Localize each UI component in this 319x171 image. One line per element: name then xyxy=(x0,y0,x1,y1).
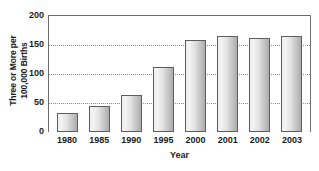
y-tick-label-50: 50 xyxy=(18,98,44,107)
bar-1990[interactable] xyxy=(121,95,142,132)
x-axis-title: Year xyxy=(48,150,311,161)
bar-series xyxy=(49,16,310,132)
plot-area xyxy=(48,15,311,132)
x-tick-label-2002: 2002 xyxy=(244,134,276,148)
bar-2002[interactable] xyxy=(249,38,270,132)
y-tick-label-200: 200 xyxy=(18,11,44,20)
x-tick-label-2003: 2003 xyxy=(276,134,308,148)
x-tick-label-2001: 2001 xyxy=(212,134,244,148)
x-tick-label-1995: 1995 xyxy=(147,134,179,148)
bar-slot xyxy=(84,16,116,132)
bar-2003[interactable] xyxy=(281,36,302,132)
bar-1980[interactable] xyxy=(57,113,78,132)
y-axis-tick-labels: 200 150 100 50 0 xyxy=(14,0,44,171)
y-tick-label-150: 150 xyxy=(18,40,44,49)
y-tick-label-0: 0 xyxy=(18,127,44,136)
bar-slot xyxy=(211,16,243,132)
bar-slot xyxy=(275,16,307,132)
x-axis-tick-labels: 19801985199019952000200120022003 xyxy=(48,134,311,148)
x-tick-label-1980: 1980 xyxy=(51,134,83,148)
x-tick-label-1990: 1990 xyxy=(115,134,147,148)
bar-chart: Three or More per 100,000 Births 200 150… xyxy=(0,0,319,171)
bar-2001[interactable] xyxy=(217,36,238,132)
x-tick-label-2000: 2000 xyxy=(180,134,212,148)
bar-slot xyxy=(116,16,148,132)
y-tick-label-100: 100 xyxy=(18,69,44,78)
bar-slot xyxy=(180,16,212,132)
x-tick-label-1985: 1985 xyxy=(83,134,115,148)
bar-1985[interactable] xyxy=(89,106,110,132)
bar-slot xyxy=(243,16,275,132)
bar-slot xyxy=(52,16,84,132)
bar-1995[interactable] xyxy=(153,67,174,132)
bar-slot xyxy=(148,16,180,132)
bar-2000[interactable] xyxy=(185,40,206,132)
